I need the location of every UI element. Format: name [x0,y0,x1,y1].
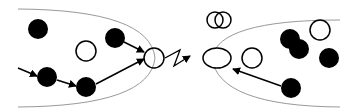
filled-particle-l-f3 [76,77,96,97]
filled-particle-r-f3 [319,48,339,68]
open-particle-r-o2 [310,20,330,40]
ellipse-particle-r-e1 [203,48,231,68]
filled-particle-r-f2 [289,39,309,59]
filled-particle-l-f2 [37,67,57,87]
open-particle-l-o1 [76,41,96,61]
open-particle-r-o1 [242,48,262,68]
particle-diagram [0,0,364,112]
arrow-a4 [124,42,144,52]
arrow-a3 [96,59,144,84]
arrow-a5 [233,69,281,86]
zigzag-interaction-arrow [165,50,190,66]
filled-particle-l-f1 [28,19,48,39]
filled-particle-l-f4 [105,28,125,48]
filled-particle-r-f4 [281,78,301,98]
arrow-a1 [18,68,37,76]
arrow-a2 [57,80,76,86]
